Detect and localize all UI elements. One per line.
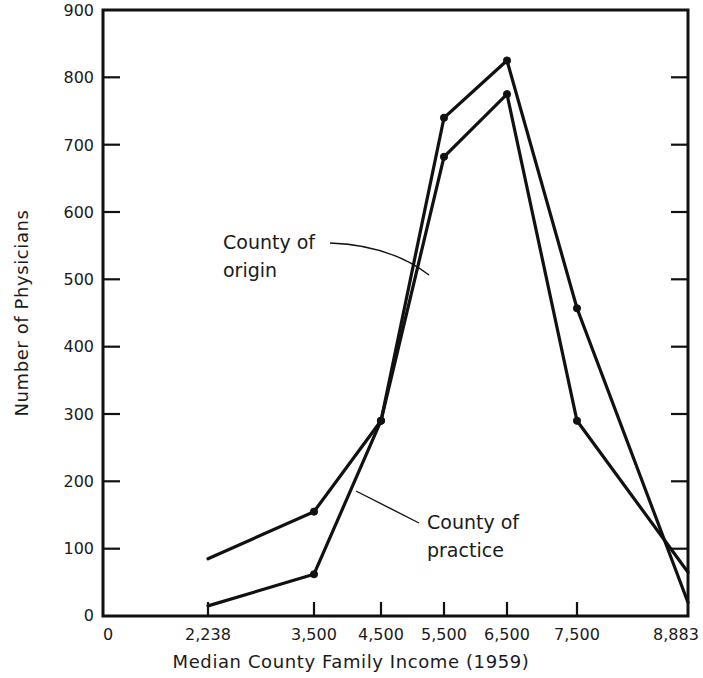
- line-chart: 0 100 200 300 400 500 600 700 800 900 0 …: [0, 0, 703, 678]
- x-tick-label: 6,500: [484, 625, 530, 644]
- x-axis-tick-labels: 0 2,238 3,500 4,500 5,500 6,500 7,500 8,…: [103, 625, 699, 644]
- data-point: [503, 57, 510, 64]
- y-tick-label: 500: [63, 270, 94, 289]
- data-point: [573, 305, 580, 312]
- x-tick-label: 5,500: [421, 625, 467, 644]
- x-tick-label: 7,500: [554, 625, 600, 644]
- y-axis-tick-labels: 0 100 200 300 400 500 600 700 800 900: [63, 1, 94, 625]
- y-tick-label: 0: [84, 606, 94, 625]
- y-tick-label: 900: [63, 1, 94, 20]
- chart-figure: 0 100 200 300 400 500 600 700 800 900 0 …: [0, 0, 703, 678]
- y-tick-label: 100: [63, 539, 94, 558]
- data-point: [503, 91, 510, 98]
- x-tick-label: 8,883: [653, 625, 699, 644]
- data-point: [440, 153, 447, 160]
- plot-frame: [103, 10, 688, 616]
- x-axis-title: Median County Family Income (1959): [173, 651, 530, 672]
- x-tick-label: 4,500: [358, 625, 404, 644]
- data-point: [573, 417, 580, 424]
- y-tick-label: 800: [63, 68, 94, 87]
- y-tick-label: 400: [63, 337, 94, 356]
- y-tick-label: 600: [63, 203, 94, 222]
- data-point: [310, 508, 317, 515]
- annotation-practice-line2: practice: [427, 539, 504, 561]
- data-point: [377, 417, 384, 424]
- x-tick-label: 0: [103, 625, 113, 644]
- annotation-origin-line1: County of: [223, 231, 316, 253]
- annotation-origin-line2: origin: [223, 259, 277, 281]
- annotation-practice-line1: County of: [427, 511, 520, 533]
- x-tick-label: 2,238: [185, 625, 231, 644]
- data-point: [440, 114, 447, 121]
- y-axis-title: Number of Physicians: [11, 209, 32, 416]
- y-tick-label: 300: [63, 405, 94, 424]
- data-point: [310, 571, 317, 578]
- y-tick-label: 700: [63, 136, 94, 155]
- x-tick-label: 3,500: [291, 625, 337, 644]
- y-tick-label: 200: [63, 472, 94, 491]
